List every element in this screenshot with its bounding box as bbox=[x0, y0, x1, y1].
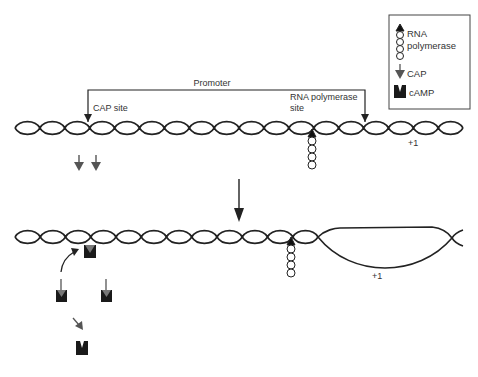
plus-one-bottom-label: +1 bbox=[372, 271, 382, 281]
legend-rna-label-line2: polymerase bbox=[407, 40, 456, 51]
cap-camp-complex-free-right bbox=[101, 279, 112, 302]
legend-cap-label: CAP bbox=[407, 68, 427, 79]
polymerase-site-arrow-icon bbox=[361, 114, 369, 122]
transcription-bubble-bottom-strand bbox=[318, 237, 452, 268]
dna-helix-top bbox=[15, 122, 463, 135]
transition-arrow-icon bbox=[234, 179, 244, 222]
cap-arrow-icon bbox=[74, 155, 84, 171]
legend-rna-polymerase-icon bbox=[396, 24, 404, 60]
legend: RNA polymerase CAP cAMP bbox=[389, 15, 470, 109]
cap-site-arrow-icon bbox=[84, 114, 92, 122]
cap-camp-complex-free-left bbox=[56, 279, 67, 302]
cap-camp-complex-bound bbox=[84, 245, 96, 258]
camp-free-icon bbox=[76, 341, 88, 355]
rna-polymerase-site-label-line1: RNA polymerase bbox=[290, 92, 358, 102]
binding-curved-arrow-icon bbox=[61, 248, 79, 272]
legend-camp-label: cAMP bbox=[409, 87, 434, 98]
dna-helix-bottom bbox=[15, 227, 463, 268]
promoter-label: Promoter bbox=[193, 78, 230, 88]
cap-site-label: CAP site bbox=[93, 103, 128, 113]
cap-arrow-icon bbox=[91, 155, 101, 171]
dissociation-arrow-icon bbox=[73, 318, 83, 330]
rna-polymerase-site-label-line2: site bbox=[290, 103, 304, 113]
legend-rna-label-line1: RNA bbox=[407, 28, 428, 39]
rna-polymerase-bottom bbox=[287, 237, 295, 277]
diagram-canvas: Promoter CAP site RNA polymerase site +1… bbox=[0, 0, 478, 377]
rna-polymerase-top bbox=[308, 129, 316, 169]
free-cap-molecules bbox=[74, 155, 101, 171]
plus-one-top-label: +1 bbox=[408, 138, 418, 148]
transcription-bubble-top-strand bbox=[318, 227, 452, 238]
